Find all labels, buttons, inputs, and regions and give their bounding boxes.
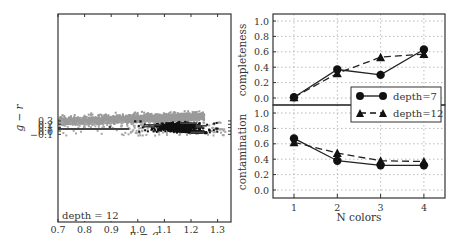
x-axis-label-left: u − g	[130, 228, 159, 235]
y-axis-label-contamination: contamination	[236, 114, 248, 191]
y-tick-label: 0.2	[254, 169, 269, 180]
circle-marker-icon	[333, 157, 341, 165]
circle-marker-icon	[376, 71, 384, 79]
scatter-panel: 0.70.80.91.01.11.21.3−0.10.00.10.20.3 de…	[13, 14, 231, 235]
triangle-marker-icon	[333, 149, 342, 158]
y-tick-label: 0.6	[254, 138, 269, 149]
y-axis-label-completeness: completeness	[236, 24, 248, 97]
y-tick-label: 0.2	[254, 77, 269, 88]
y-tick-label: 0.6	[254, 46, 269, 57]
y-tick-label: 0.0	[254, 185, 269, 196]
x-tick-label: 0.7	[50, 224, 65, 235]
x-tick-label: 1	[291, 202, 297, 213]
x-tick-label: 1.2	[183, 224, 198, 235]
y-tick-label: 0.3	[38, 115, 53, 126]
legend-label-depth7: depth=7	[393, 91, 437, 102]
legend-label-depth12: depth=12	[393, 108, 443, 119]
depth-annotation: depth = 12	[62, 210, 119, 221]
circle-marker-icon	[379, 92, 387, 100]
x-tick-label: 1.3	[210, 224, 225, 235]
y-tick-label: 1.0	[254, 108, 269, 119]
y-tick-label: 0.8	[254, 31, 269, 42]
circle-marker-icon	[356, 92, 364, 100]
x-tick-label: 0.9	[104, 224, 119, 235]
y-tick-label: 1.0	[254, 16, 269, 27]
left-ticks: 0.70.80.91.01.11.21.3−0.10.00.10.20.3	[30, 14, 231, 235]
legend: depth=7 depth=12	[351, 87, 443, 122]
metrics-panel: 12340.00.00.20.20.40.40.60.60.80.81.01.0…	[236, 14, 445, 223]
y-tick-label: 0.0	[254, 93, 269, 104]
triangle-marker-icon	[419, 157, 428, 166]
figure: 0.70.80.91.01.11.21.3−0.10.00.10.20.3 de…	[0, 0, 462, 235]
y-tick-label: 0.8	[254, 123, 269, 134]
x-tick-label: 4	[421, 202, 427, 213]
y-tick-label: 0.4	[254, 154, 269, 165]
x-tick-label: 1.1	[157, 224, 172, 235]
x-tick-label: 0.8	[77, 224, 92, 235]
boundary-line	[109, 127, 110, 129]
series-line	[294, 142, 424, 161]
y-axis-label-left: g − r	[13, 103, 25, 131]
triangle-marker-icon	[376, 53, 385, 62]
y-tick-label: 0.4	[254, 62, 269, 73]
x-axis-label-right: N colors	[337, 211, 382, 223]
